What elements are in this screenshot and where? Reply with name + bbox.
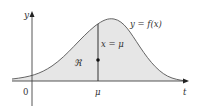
diagram-canvas: y y = f(x) x = μ ℜ 0 μ t (0, 0, 200, 111)
origin-label: 0 (23, 87, 28, 97)
curve-label: y = f(x) (129, 19, 162, 29)
y-axis-arrow-icon (30, 11, 35, 17)
vline-label: x = μ (101, 39, 124, 49)
y-axis-label: y (23, 10, 30, 20)
mu-tick-label: μ (95, 87, 101, 97)
centroid-dot (96, 58, 100, 62)
x-axis-arrow-icon (183, 79, 189, 84)
diagram-svg: y y = f(x) x = μ ℜ 0 μ t (0, 0, 200, 111)
x-axis-label: t (183, 87, 187, 97)
